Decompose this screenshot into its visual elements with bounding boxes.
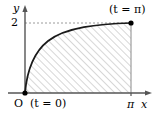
y-tick-label-2: 2 — [11, 17, 18, 28]
parametric-curve-figure: y x 2 π O (t = 0) (t = π) — [0, 0, 156, 116]
y-axis-label: y — [13, 3, 19, 14]
x-tick-label-pi: π — [127, 99, 134, 110]
origin-label: O — [14, 98, 23, 109]
annotation-t-zero: (t = 0) — [30, 98, 66, 109]
point-t-zero — [22, 90, 27, 95]
x-axis-arrow — [145, 90, 152, 95]
shaded-region — [25, 22, 132, 94]
x-axis-label: x — [141, 99, 147, 110]
y-axis-arrow — [22, 5, 27, 12]
point-t-pi — [128, 20, 133, 25]
annotation-t-pi: (t = π) — [109, 4, 145, 15]
